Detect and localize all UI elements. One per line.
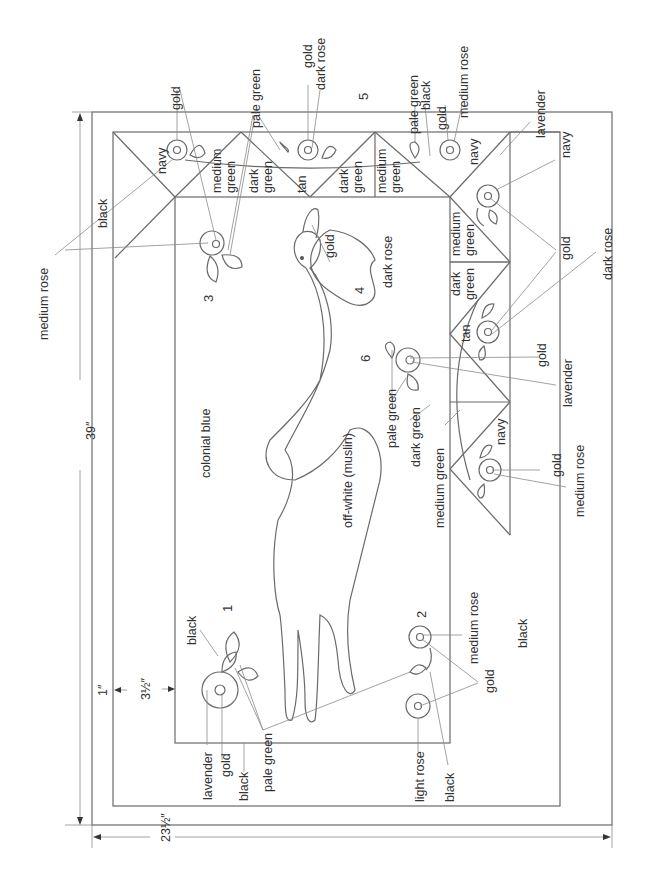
flower-top-left bbox=[167, 140, 205, 160]
label-medium-green-2: medium bbox=[375, 149, 389, 193]
label-medium-green-1b: green bbox=[224, 161, 238, 193]
label-gold-beak: gold bbox=[323, 234, 337, 258]
label-green-r: green bbox=[463, 224, 477, 256]
label-medium-green-6: medium green bbox=[433, 448, 447, 528]
label-gold-t2: gold bbox=[301, 44, 315, 68]
label-black-t: black bbox=[419, 80, 433, 110]
label-dark-green-1b: green bbox=[261, 161, 275, 193]
number-5: 5 bbox=[356, 93, 371, 100]
label-1-inch: 1″ bbox=[96, 684, 110, 696]
label-dark-rose-t: dark rose bbox=[314, 38, 328, 90]
label-gold-t1: gold bbox=[169, 86, 183, 110]
label-23-5-inch: 23½″ bbox=[159, 813, 173, 842]
label-tan-r: tan bbox=[459, 325, 473, 342]
flower-top-right bbox=[410, 140, 460, 160]
label-lavender-1: lavender bbox=[201, 752, 215, 800]
label-green-r2: green bbox=[463, 268, 477, 300]
label-medium-rose-br: medium rose bbox=[573, 445, 587, 517]
label-dark-r: dark bbox=[449, 271, 463, 296]
label-black-top: black bbox=[96, 198, 110, 228]
label-colonial-blue: colonial blue bbox=[199, 408, 213, 478]
label-navy-right-top: navy bbox=[467, 138, 481, 165]
label-pale-green-t: pale green bbox=[249, 69, 263, 128]
flower-bottom-right bbox=[478, 445, 501, 498]
label-light-rose-2: light rose bbox=[413, 751, 427, 802]
flower-1 bbox=[202, 632, 258, 708]
leader-lines bbox=[55, 85, 596, 772]
number-4: 4 bbox=[352, 287, 367, 294]
label-lavender-6: lavender bbox=[561, 359, 575, 407]
label-navy-top: navy bbox=[155, 147, 169, 174]
label-black-bottom: black bbox=[516, 618, 530, 648]
flower-top-middle bbox=[280, 140, 336, 160]
label-navy-r: navy bbox=[494, 418, 508, 445]
label-black-1b: black bbox=[237, 771, 251, 801]
label-dark-green-2: dark bbox=[337, 168, 351, 193]
label-39-inch: 39″ bbox=[84, 421, 98, 440]
flower-corner bbox=[477, 185, 499, 226]
flower-3 bbox=[200, 231, 242, 282]
label-medium-rose-left: medium rose bbox=[37, 268, 51, 340]
label-medium-green-2b: green bbox=[389, 161, 403, 193]
label-lavender-corner: lavender bbox=[534, 90, 548, 138]
label-medium-r: medium bbox=[449, 212, 463, 256]
label-medium-green-1: medium bbox=[210, 149, 224, 193]
goose-eye bbox=[300, 256, 304, 260]
label-pale-green-1: pale green bbox=[261, 733, 275, 792]
label-dark-green-2b: green bbox=[351, 161, 365, 193]
label-gold-1: gold bbox=[219, 753, 233, 777]
label-dark-rose-heart: dark rose bbox=[381, 236, 395, 288]
label-medium-rose-t: medium rose bbox=[457, 46, 471, 118]
label-navy-corner: navy bbox=[559, 131, 573, 158]
number-1: 1 bbox=[220, 605, 235, 612]
label-tan-1: tan bbox=[295, 176, 309, 193]
label-dark-green-6: dark green bbox=[409, 407, 423, 467]
label-3-5-inch: 3½″ bbox=[139, 678, 153, 700]
number-2: 2 bbox=[414, 611, 429, 618]
label-dark-rose-r: dark rose bbox=[601, 228, 615, 280]
label-gold-t3: gold bbox=[435, 106, 449, 130]
label-dark-green-1: dark bbox=[247, 168, 261, 193]
quilt-diagram: 39″ 23½″ 1″ 3½″ medium rose black black … bbox=[0, 0, 650, 884]
label-black-1: black bbox=[185, 615, 199, 645]
label-off-white: off-white (muslin) bbox=[341, 433, 355, 528]
label-gold-r1: gold bbox=[559, 236, 573, 260]
label-medium-rose-2: medium rose bbox=[467, 592, 481, 664]
flower-right-1 bbox=[477, 304, 499, 360]
label-black-2: black bbox=[443, 772, 457, 802]
dimension-39-inch bbox=[65, 112, 92, 825]
label-gold-6: gold bbox=[535, 343, 549, 367]
label-gold-br: gold bbox=[550, 453, 564, 477]
number-6: 6 bbox=[358, 355, 373, 362]
number-3: 3 bbox=[201, 295, 216, 302]
label-gold-2: gold bbox=[483, 669, 497, 693]
label-pale-green-6: pale green bbox=[385, 389, 399, 448]
